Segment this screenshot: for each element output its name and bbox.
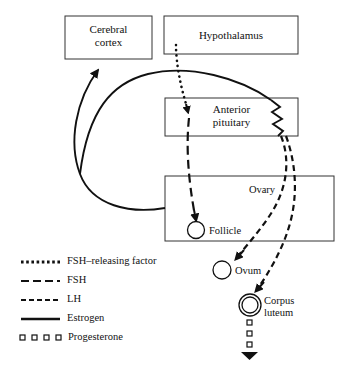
legend-item-fsh-releasing-factor: FSH–releasing factor [21, 255, 157, 266]
structure-corpus-luteum: Corpus luteum [239, 294, 294, 318]
progesterone-path [241, 320, 258, 360]
legend-label-progesterone: Progesterone [68, 331, 123, 342]
box-hypothalamus: Hypothalamus [164, 16, 298, 54]
hormonal-control-diagram: Cerebral cortex Hypothalamus Anterior pi… [0, 0, 347, 366]
corpus-luteum-label-line2: luteum [264, 307, 293, 318]
corpus-luteum-inner-circle [242, 297, 258, 313]
legend-item-fsh: FSH [21, 274, 87, 285]
legend-swatch-square-2 [32, 335, 37, 340]
lh-arrowhead-ovum [236, 250, 244, 259]
ovum-label: Ovum [235, 265, 261, 276]
legend: FSH–releasing factor FSH LH Estrogen Pro… [20, 255, 157, 342]
progesterone-square-1 [247, 320, 252, 325]
anterior-pituitary-label-line1: Anterior [213, 103, 251, 115]
progesterone-square-3 [247, 342, 252, 347]
diagram-page: Cerebral cortex Hypothalamus Anterior pi… [0, 0, 347, 366]
cerebral-cortex-label-line1: Cerebral [90, 23, 128, 35]
hypothalamus-label: Hypothalamus [199, 29, 263, 41]
progesterone-arrowhead [241, 352, 258, 360]
follicle-circle [188, 222, 205, 239]
corpus-luteum-label-line1: Corpus [264, 295, 294, 306]
legend-item-lh: LH [21, 293, 81, 304]
estrogen-path-to-cerebral-cortex [74, 70, 165, 210]
structure-ovum: Ovum [213, 261, 261, 279]
ovary-label: Ovary [249, 184, 276, 195]
legend-item-estrogen: Estrogen [21, 312, 105, 323]
legend-swatch-square-3 [44, 335, 49, 340]
anterior-pituitary-label-line2: pituitary [213, 116, 251, 128]
legend-label-fsh-releasing-factor: FSH–releasing factor [67, 255, 157, 266]
legend-label-estrogen: Estrogen [67, 312, 105, 323]
legend-swatch-square-4 [56, 335, 61, 340]
legend-item-progesterone: Progesterone [20, 331, 123, 342]
follicle-label: Follicle [209, 225, 241, 236]
cerebral-cortex-label-line2: cortex [95, 36, 123, 48]
legend-label-fsh: FSH [67, 274, 87, 285]
structure-follicle: Follicle [188, 222, 242, 239]
box-cerebral-cortex: Cerebral cortex [65, 16, 152, 59]
lh-arrowhead-corpus-luteum [256, 282, 264, 291]
legend-label-lh: LH [67, 293, 81, 304]
legend-swatch-square-1 [20, 335, 25, 340]
progesterone-square-2 [247, 331, 252, 336]
ovum-circle [213, 261, 231, 279]
